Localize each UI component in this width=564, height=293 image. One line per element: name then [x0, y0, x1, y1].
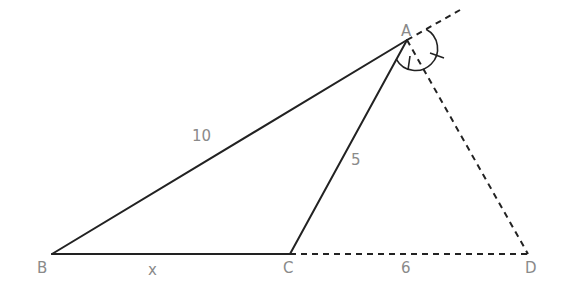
segment-AB	[52, 40, 407, 254]
segment-AD	[407, 40, 528, 254]
side-label-CD: 6	[401, 259, 411, 277]
side-label-AB: 10	[192, 127, 211, 145]
point-label-C: C	[283, 259, 293, 277]
point-label-D: D	[525, 259, 537, 277]
geometry-diagram: A B C D 10 5 x 6	[0, 0, 564, 293]
angle-tick-2	[408, 56, 410, 70]
point-label-A: A	[401, 22, 412, 40]
segment-AC	[290, 40, 407, 254]
side-label-BC: x	[148, 261, 157, 279]
side-label-AC: 5	[351, 151, 361, 169]
point-label-B: B	[37, 259, 47, 277]
